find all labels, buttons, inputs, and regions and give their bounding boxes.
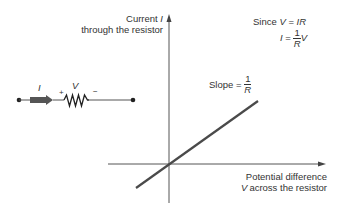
equation-since: Since V = IR [253, 16, 306, 27]
slope-fraction: 1 R [244, 74, 251, 95]
slope-label: Slope = 1 R [209, 74, 251, 95]
since-lhs: V [279, 16, 285, 27]
resistor-circuit [17, 95, 136, 106]
current-arrow-icon [30, 95, 53, 105]
y-axis-symbol: I [160, 13, 163, 24]
y-axis-label-line2: through the resistor [81, 24, 163, 35]
x-axis-label-line2: across the resistor [249, 182, 327, 193]
circuit-current-symbol: I [38, 82, 41, 93]
slope-text: Slope = [209, 79, 242, 90]
since-equals: = [288, 16, 294, 27]
result-equals: = [285, 32, 291, 43]
y-axis [167, 14, 172, 203]
iv-line [136, 101, 258, 188]
x-axis-label-line1: Potential difference [241, 171, 327, 182]
result-fraction-den: R [293, 39, 300, 49]
x-axis-label: Potential difference Vacross the resisto… [241, 171, 327, 193]
x-axis [108, 162, 326, 167]
circuit-plus-sign: + [59, 87, 64, 98]
circuit-minus-sign: − [93, 86, 98, 97]
result-lhs: I [280, 32, 283, 43]
terminal-right-icon [131, 98, 136, 103]
y-axis-arrowhead-icon [167, 14, 172, 22]
x-axis-symbol: V [241, 182, 247, 193]
equation-result: I = 1 R V [280, 28, 307, 49]
y-axis-label: Current I through the resistor [81, 13, 163, 35]
since-text: Since [253, 16, 277, 27]
since-rhs: IR [297, 16, 307, 27]
result-fraction: 1 R [293, 28, 300, 49]
result-tail: V [301, 32, 307, 43]
x-axis-arrowhead-icon [318, 162, 326, 167]
slope-fraction-den: R [244, 85, 251, 95]
y-axis-label-line1: Current [126, 13, 158, 24]
circuit-voltage-symbol: V [72, 80, 78, 91]
resistor-icon [64, 95, 89, 106]
